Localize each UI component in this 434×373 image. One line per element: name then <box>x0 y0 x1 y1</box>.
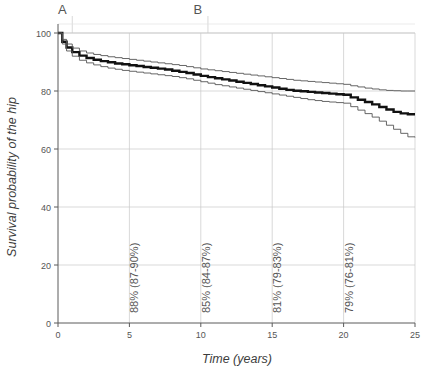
x-tick-label: 15 <box>267 330 277 340</box>
y-tick-label: 20 <box>41 261 51 271</box>
x-tick-label: 20 <box>339 330 349 340</box>
y-tick-label: 100 <box>36 29 51 39</box>
x-tick-label: 5 <box>127 330 132 340</box>
y-tick-label: 40 <box>41 203 51 213</box>
panel-letter-a: A <box>58 2 67 17</box>
y-axis-title: Survival probability of the hip <box>5 97 19 257</box>
x-tick-label: 25 <box>410 330 420 340</box>
x-tick-label: 0 <box>55 330 60 340</box>
plot-background <box>0 0 434 373</box>
chart-canvas: 0510152025020406080100 88% (87-90%)85% (… <box>0 0 434 373</box>
survival-chart: 0510152025020406080100 88% (87-90%)85% (… <box>0 0 434 373</box>
y-tick-label: 60 <box>41 145 51 155</box>
y-tick-label: 0 <box>46 319 51 329</box>
survival-annotation: 81% (79-83%) <box>271 243 283 313</box>
panel-letter-b: B <box>194 2 203 17</box>
x-axis-title: Time (years) <box>202 352 272 366</box>
x-tick-label: 10 <box>196 330 206 340</box>
survival-annotation: 88% (87-90%) <box>128 243 140 313</box>
y-tick-label: 80 <box>41 87 51 97</box>
survival-annotation: 85% (84-87%) <box>200 243 212 313</box>
survival-annotation: 79% (76-81%) <box>343 243 355 313</box>
